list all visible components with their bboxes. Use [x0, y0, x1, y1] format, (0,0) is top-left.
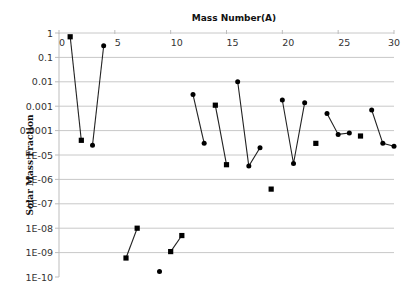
circle-marker — [347, 130, 352, 135]
circle-marker — [336, 132, 341, 137]
circle-marker — [392, 144, 397, 149]
square-marker — [179, 233, 184, 238]
y-tick-label: 1E-09 — [25, 247, 53, 258]
y-tick-label: 0.01 — [32, 76, 53, 87]
y-tick-label: 1E-08 — [25, 223, 53, 234]
data-line — [215, 105, 226, 165]
y-axis-title: Solar Mass Fraction — [25, 114, 35, 216]
circle-marker — [280, 97, 285, 102]
gridlines — [59, 33, 394, 253]
square-marker — [269, 187, 274, 192]
circle-marker — [101, 43, 106, 48]
x-tick-label: 30 — [388, 37, 400, 48]
square-marker — [358, 133, 363, 138]
square-marker — [313, 141, 318, 146]
square-marker — [79, 138, 84, 143]
data-line — [70, 37, 81, 141]
circle-marker — [235, 79, 240, 84]
y-tick-label: 1 — [47, 28, 53, 39]
square-marker — [68, 34, 73, 39]
x-tick-label: 0 — [59, 37, 65, 48]
square-marker — [224, 162, 229, 167]
circle-marker — [258, 145, 263, 150]
x-tick-label: 15 — [227, 37, 239, 48]
data-line — [372, 110, 394, 146]
x-tick-label: 25 — [338, 37, 350, 48]
square-marker — [135, 226, 140, 231]
square-marker — [123, 255, 128, 260]
data-line — [238, 82, 260, 166]
circle-marker — [325, 111, 330, 116]
data-line — [126, 228, 137, 258]
y-tick-label: 1E-10 — [25, 272, 53, 283]
square-marker — [168, 249, 173, 254]
data-line — [327, 114, 349, 135]
circle-marker — [380, 141, 385, 146]
circle-marker — [369, 107, 374, 112]
circle-marker — [90, 143, 95, 148]
square-marker — [213, 103, 218, 108]
circle-marker — [202, 141, 207, 146]
circle-marker — [191, 92, 196, 97]
data-line — [282, 100, 304, 164]
x-tick-label: 20 — [282, 37, 294, 48]
y-tick-label: 0.1 — [38, 52, 53, 63]
data-line — [193, 95, 204, 144]
y-tick-label: 0.001 — [26, 101, 53, 112]
circle-marker — [246, 164, 251, 169]
x-tick-label: 10 — [171, 37, 183, 48]
chart: 10.10.010.0010.00011E-051E-061E-071E-081… — [0, 0, 417, 293]
circle-marker — [302, 100, 307, 105]
data-markers — [68, 34, 397, 274]
circle-marker — [291, 161, 296, 166]
x-tick-label: 5 — [115, 37, 121, 48]
circle-marker — [157, 269, 162, 274]
chart-title: Mass Number(A) — [192, 13, 276, 23]
data-lines — [70, 37, 394, 258]
